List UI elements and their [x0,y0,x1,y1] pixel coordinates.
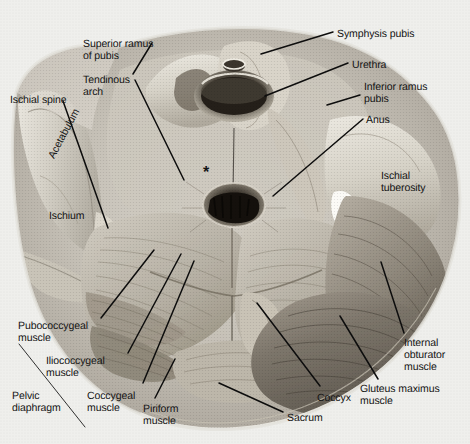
anatomical-figure: Superior ramus of pubisTendinous archIsc… [0,0,470,444]
label-urethra: Urethra [352,59,386,71]
label-piriform-muscle: Piriform muscle [143,403,178,427]
label-iliococcygeal-muscle: Iliococcygeal muscle [46,355,105,379]
label-tendinous-arch: Tendinous arch [83,74,130,98]
label-ischial-spine: Ischial spine [10,94,66,106]
label-acetabulum: Acetabulum [46,107,82,161]
label-ischial-tuberosity: Ischial tuberosity [381,170,426,194]
label-ischium: Ischium [49,210,84,222]
label-coccygeal-muscle: Coccygeal muscle [87,390,135,414]
label-anus: Anus [366,114,390,126]
label-gluteus-maximus-muscle: Gluteus maximus muscle [360,383,440,407]
label-superior-ramus-of-pubis: Superior ramus of pubis [83,38,153,62]
label-symphysis-pubis: Symphysis pubis [337,28,414,40]
label-pubococcygeal-muscle: Pubococcygeal muscle [18,320,88,344]
label-pelvic-diaphragm: Pelvic diaphragm [12,390,61,414]
label-inferior-ramus-pubis: Inferior ramus pubis [364,81,427,105]
label-layer: Superior ramus of pubisTendinous archIsc… [0,0,470,444]
label-internal-obturator-muscle: Internal obturator muscle [404,337,445,374]
label-sacrum: Sacrum [287,412,323,424]
asterisk-marker: * [203,168,209,178]
label-coccyx: Coccyx [317,392,351,404]
